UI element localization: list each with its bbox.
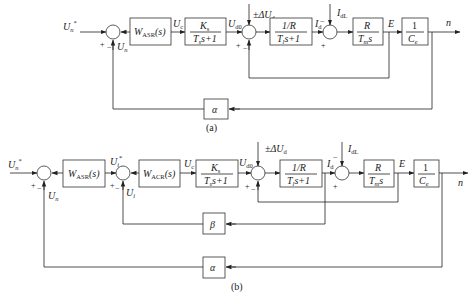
emf-num-b: 1 [423,162,428,173]
minus-sign: − [243,44,248,53]
signal-uc-a: Uc [173,18,183,30]
plus-sign: + [245,182,250,191]
diagram-b: Un* + − Un WASR(s) Ui* + − Ui WACR(s) Uc… [8,142,468,293]
armature-num-b: 1/R [292,162,306,173]
speed-feedback-return-b [44,186,203,267]
signal-e-a: E [387,18,394,29]
signal-ui: Ui [126,187,135,199]
signal-uc-b: Uc [184,158,194,170]
feedback-label-un-a: Un [117,41,127,53]
plus-sign: + [236,41,241,50]
signal-ud0-a: Ud0 [228,18,242,30]
signal-idl-b: IdL [347,143,359,155]
speed-feedback-return-a [113,45,204,109]
plus-sign: + [333,182,338,191]
signal-n-b: n [458,177,463,188]
converter-den-b: Tss+1 [204,175,228,187]
minus-sign: − [115,184,120,193]
summing-junction-voltage-b [251,166,265,180]
armature-den-a: Tls+1 [277,33,300,45]
minus-sign: − [333,153,338,162]
mech-num-b: R [374,162,381,173]
minus-sign: − [251,185,256,194]
minus-sign: − [37,184,42,193]
signal-ui-star: Ui* [110,154,122,168]
plus-sign: + [100,40,105,49]
signal-idl-a: IdL [336,7,348,19]
signal-ud0-b: Ud0 [239,157,253,169]
signal-n-a: n [446,17,451,28]
alpha-label-b: α [210,262,216,273]
summing-junction-speed-b [37,166,51,180]
emf-num-a: 1 [412,20,417,31]
caption-b: (b) [231,281,243,293]
plus-sign: + [31,181,36,190]
converter-den-a: Tss+1 [193,33,217,45]
feedback-label-un-b: Un [48,190,58,202]
beta-label-b: β [209,219,215,230]
armature-num-a: 1/R [282,20,296,31]
summing-junction-load-b [335,166,349,180]
minus-sign: − [320,17,325,26]
block-diagrams: Un* + − Un WASR(s) Uc Ks Tss+1 Ud0 ±ΔUd … [0,0,473,294]
summing-junction-current-b [116,166,130,180]
summing-junction-speed-a [106,25,120,39]
input-label-b: Un* [8,157,22,171]
signal-disturbance-b: ±ΔUd [265,143,288,155]
signal-e-b: E [398,158,405,169]
summing-junction-load-a [323,25,337,39]
caption-a: (a) [206,122,217,134]
diagram-a: Un* + − Un WASR(s) Uc Ks Tss+1 Ud0 ±ΔUd … [63,4,460,134]
summing-junction-voltage-a [242,25,256,39]
alpha-label-a: α [212,104,218,115]
input-label-a: Un* [63,19,77,33]
plus-sign: + [321,41,326,50]
armature-den-b: Tls+1 [287,175,310,187]
mech-num-a: R [363,20,370,31]
minus-sign: − [107,43,112,52]
